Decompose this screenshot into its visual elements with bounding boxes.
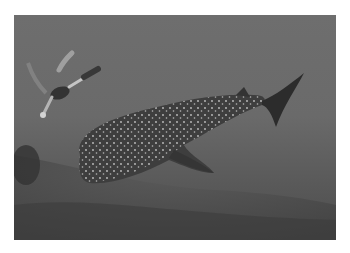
scuba-diver [28,53,98,118]
whale-shark-photo: Grayscale underwater photograph of a wha… [14,15,336,240]
whale-shark [79,73,304,183]
photo-illustration [14,15,336,240]
